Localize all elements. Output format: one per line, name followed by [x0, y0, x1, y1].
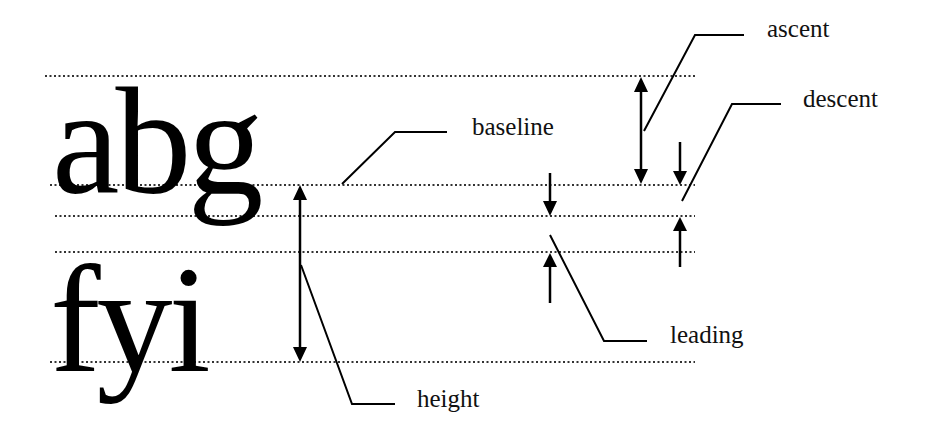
ascent-leader-line	[644, 35, 744, 131]
label-ascent: ascent	[767, 16, 829, 41]
ascent-arrow-icon	[634, 77, 648, 184]
label-descent: descent	[803, 86, 878, 111]
baseline-leader-line	[342, 132, 447, 184]
label-leading: leading	[670, 322, 744, 347]
sample-text-fyi: fyi	[50, 244, 207, 396]
label-height: height	[417, 386, 480, 411]
leading-leader-line	[550, 235, 647, 341]
label-baseline: baseline	[472, 114, 554, 139]
sample-text-abg: abg	[52, 66, 259, 218]
height-leader-line	[301, 265, 395, 404]
leader-lines	[301, 35, 781, 404]
leading-arrows-icon	[543, 173, 557, 303]
descent-arrows-icon	[673, 142, 687, 267]
font-metrics-diagram: abg fyi ascent descent baseline leading …	[0, 0, 940, 435]
descent-leader-line	[682, 104, 781, 201]
